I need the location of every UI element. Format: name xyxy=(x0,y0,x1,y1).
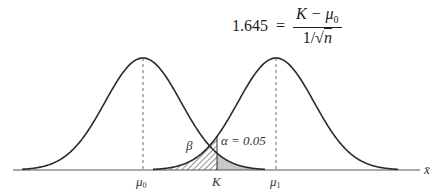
alpha-region xyxy=(217,153,265,170)
beta-region xyxy=(153,136,217,170)
beta-label: β xyxy=(185,138,193,153)
hypothesis-test-diagram: μ0 K μ1 β α = 0.05 x̄ xyxy=(0,0,447,192)
mu0-label: μ0 xyxy=(135,174,147,190)
x-bar-axis-label: x̄ xyxy=(423,162,430,177)
alpha-label: α = 0.05 xyxy=(221,133,266,148)
k-label: K xyxy=(211,174,222,189)
mu1-label: μ1 xyxy=(269,174,281,190)
